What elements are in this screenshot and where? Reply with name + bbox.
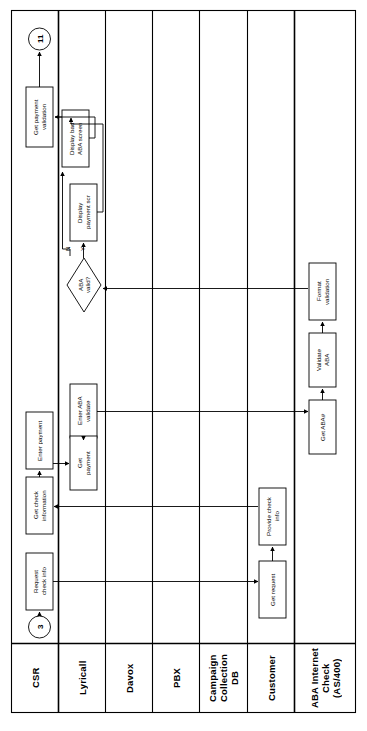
node-get-check-information — [26, 477, 53, 534]
edge-label-yes: Y — [77, 242, 87, 256]
lane-label-csr: CSR — [12, 644, 58, 712]
node-display-bad-aba-screen — [62, 110, 89, 167]
edge-label-no: N — [62, 242, 72, 256]
connector-3-label: 3 — [29, 616, 51, 638]
node-provide-check-info — [259, 488, 286, 545]
lane-label-davox: Davox — [106, 644, 152, 712]
node-format-validation — [309, 263, 336, 320]
node-enter-aba-validate — [70, 384, 97, 438]
lane-label-customer: Customer — [248, 644, 294, 712]
connector-11-label: 11 — [29, 28, 51, 50]
lane-label-aba-internet-check: ABA Internet Check (AS/400) — [295, 644, 355, 712]
node-get-request — [259, 561, 286, 618]
lane-label-pbx: PBX — [153, 644, 199, 712]
flowchart-vector-layer — [0, 0, 367, 731]
node-get-payment — [70, 436, 97, 490]
node-get-aba-number — [309, 400, 336, 454]
node-enter-payment — [26, 412, 53, 469]
lane-label-campaign-collection-db: Campaign Collection DB — [200, 644, 247, 712]
flowchart-canvas: 11 3 Get payment validation Enter paymen… — [0, 0, 367, 731]
lane-label-lyricall: Lyricall — [59, 644, 105, 712]
node-display-payment-scr — [70, 184, 97, 241]
node-validate-aba — [309, 333, 336, 387]
node-get-payment-validation — [26, 87, 53, 147]
node-request-check-info — [26, 553, 53, 610]
